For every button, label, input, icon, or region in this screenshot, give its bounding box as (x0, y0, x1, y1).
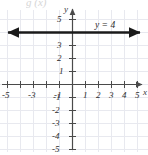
x-tick-label-4: 4 (122, 91, 127, 100)
x-tick-label-5: 5 (135, 91, 140, 100)
y-axis-label: y (64, 5, 68, 14)
x-tick-label-neg-5: -5 (2, 91, 10, 100)
x-tick-label-1: 1 (83, 91, 88, 100)
y-tick-label-2: 2 (57, 54, 62, 63)
line-equation-label: y = 4 (95, 21, 115, 31)
y-tick-label-neg-4: -4 (52, 132, 60, 141)
plot-series (0, 0, 148, 155)
y-tick-label-neg-5: -5 (52, 145, 60, 154)
x-tick-label-neg-3: -3 (28, 91, 36, 100)
coordinate-plane-figure: g (x) (0, 0, 148, 155)
y-tick-label-neg-3: -3 (52, 119, 60, 128)
x-tick-label-neg-1: -1 (54, 91, 62, 100)
y-tick-label-neg-2: -2 (52, 106, 60, 115)
y-tick-label-1: 1 (59, 67, 64, 76)
x-tick-label-2: 2 (96, 91, 101, 100)
x-axis-label: x (143, 88, 147, 97)
x-tick-label-3: 3 (109, 91, 114, 100)
y-tick-label-5: 5 (57, 15, 62, 24)
y-tick-label-3: 3 (57, 41, 62, 50)
